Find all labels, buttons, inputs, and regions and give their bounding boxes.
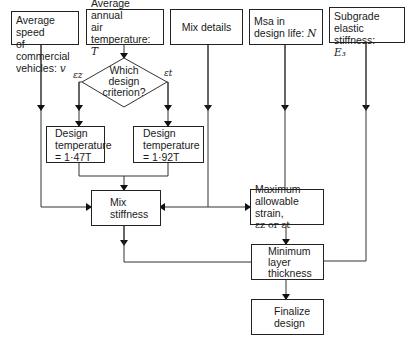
mix-stiffness-line1: Mix: [110, 196, 156, 208]
min-thickness-line3: thickness: [268, 268, 319, 279]
subgrade-line2: elastic stiffness:: [334, 22, 400, 46]
max-strain-line2: allowable strain,: [255, 195, 319, 219]
design-temp-right-line3: = 1·92T: [143, 151, 199, 163]
temperature-var: T: [91, 45, 98, 57]
design-temp-right-line1: Design: [143, 127, 199, 139]
design-temp-right-line2: temperature: [143, 139, 199, 151]
subgrade-line1: Subgrade: [334, 10, 400, 22]
design-temp-left-line2: temperature: [55, 139, 100, 151]
speed-label: vehicles:: [16, 62, 57, 74]
design-temp-right-box: Design temperature = 1·92T: [133, 126, 204, 163]
msa-line2: design life: N: [254, 27, 318, 39]
design-temp-left-line3: = 1·47T: [55, 151, 100, 163]
decision-diamond: Which design criterion?: [94, 65, 154, 98]
input-speed-box: Average speed of commercial vehicles: v: [11, 11, 79, 45]
design-temp-left-line1: Design: [55, 127, 100, 139]
decision-right-label: εt: [164, 68, 172, 78]
min-thickness-box: Minimum layer thickness: [251, 244, 324, 280]
subgrade-var: E₃: [334, 46, 346, 58]
min-thickness-line1: Minimum: [268, 246, 319, 257]
input-temperature-box: Average annual air temperature: T: [86, 9, 164, 45]
finalize-line1: Finalize: [274, 305, 319, 317]
max-strain-line1: Maximum: [255, 183, 319, 195]
design-temp-left-box: Design temperature = 1·47T: [46, 126, 105, 163]
input-mix-details-box: Mix details: [170, 9, 243, 45]
input-msa-box: Msa in design life: N: [249, 9, 323, 45]
speed-line2: of commercial: [16, 38, 74, 62]
max-strain-box: Maximum allowable strain, εz or εt: [250, 189, 324, 225]
speed-line3: vehicles: v: [16, 62, 74, 74]
decision-line3: criterion?: [94, 87, 154, 98]
decision-left-label: εz: [73, 70, 83, 80]
mix-stiffness-line2: stiffness: [110, 208, 156, 220]
msa-line1: Msa in: [254, 15, 318, 27]
speed-line1: Average speed: [16, 14, 74, 38]
msa-var: N: [307, 27, 316, 39]
min-thickness-line2: layer: [268, 257, 319, 268]
temperature-label: air temperature:: [91, 21, 151, 45]
msa-label: design life:: [254, 27, 304, 39]
mix-details-label: Mix details: [182, 21, 232, 33]
finalize-box: Finalize design: [251, 299, 324, 335]
speed-var: v: [60, 62, 66, 74]
max-strain-line3: εz or εt: [255, 219, 319, 231]
input-subgrade-box: Subgrade elastic stiffness: E₃: [329, 7, 405, 43]
temperature-line2: air temperature: T: [91, 21, 159, 57]
finalize-line2: design: [274, 317, 319, 329]
mix-stiffness-box: Mix stiffness: [91, 190, 161, 226]
temperature-line1: Average annual: [91, 0, 159, 21]
